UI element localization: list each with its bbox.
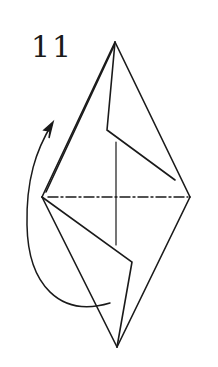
inner-flap-lower: [42, 197, 132, 347]
inner-flap-upper: [107, 42, 175, 180]
outline-edge-top-right: [115, 42, 190, 197]
origami-diagram: [0, 0, 218, 367]
outline-edge-bottom-right: [117, 197, 190, 347]
layer-edge-top-left: [46, 46, 114, 192]
outline-edge-bottom-left: [42, 197, 117, 347]
outline-edge-top-left: [42, 42, 115, 197]
